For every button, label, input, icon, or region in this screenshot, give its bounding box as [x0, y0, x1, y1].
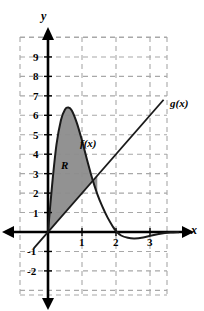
region-label-R: R — [61, 159, 68, 171]
curve-label-f: f(x) — [80, 138, 97, 149]
y-tick-label-9: 9 — [33, 52, 39, 63]
y-axis-arrow-down — [42, 298, 54, 310]
y-tick-label-7: 7 — [33, 91, 39, 102]
x-axis-letter: x — [191, 224, 197, 236]
y-tick-label-4: 4 — [33, 149, 39, 160]
y-tick-label-8: 8 — [33, 71, 39, 82]
y-tick-label-1: 1 — [33, 208, 39, 219]
y-tick-label-6: 6 — [33, 110, 39, 121]
y-tick-label-3: 3 — [33, 169, 39, 180]
x-tick-label-2: 2 — [113, 237, 119, 248]
x-tick-label-1: 1 — [79, 237, 85, 248]
y-tick-label-2: 2 — [33, 188, 39, 199]
y-tick-label-neg2: -2 — [27, 266, 36, 277]
y-tick-label-5: 5 — [33, 130, 39, 141]
x-axis-arrow-left — [2, 226, 14, 238]
y-tick-label-neg1: -1 — [27, 246, 36, 257]
y-axis-letter: y — [41, 10, 46, 22]
x-tick-label-3: 3 — [147, 237, 153, 248]
y-axis-arrow-up — [42, 27, 54, 40]
curve-label-g: g(x) — [170, 98, 188, 109]
grid-lines — [20, 37, 167, 295]
graph-figure: y x f(x) g(x) R 123987654321-1-2 — [0, 0, 204, 311]
